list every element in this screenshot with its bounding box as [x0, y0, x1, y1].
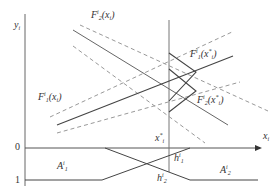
f2-at-xstar-label: Fi2(x*i) — [197, 94, 224, 106]
x-axis-arrow-icon — [255, 145, 262, 151]
f1-at-xstar-label: Fi1(x*i) — [190, 48, 217, 60]
x-axis-label: xi — [263, 131, 269, 142]
f2-lower-bound — [73, 46, 205, 143]
x-star-label: x*i — [155, 132, 164, 144]
f2-label: Fi2(xi) — [91, 9, 115, 21]
f1-line — [57, 56, 233, 125]
region-a2-label: Ai2 — [220, 164, 231, 176]
tick-0: 0 — [15, 142, 20, 152]
tick-1: 1 — [15, 175, 20, 185]
fuzzy-function-diagram: yi xi 0 1 Fi2(xi) Fi1(xi) Fi1(x*i) Fi2(x… — [0, 0, 279, 196]
h2-label: hi2 — [157, 172, 167, 184]
h1-label: hi1 — [174, 152, 184, 164]
region-a1-label: Ai1 — [57, 160, 68, 172]
y-axis-label: yi — [14, 20, 20, 31]
f2-upper-bound — [80, 25, 268, 111]
f1-label: Fi1(xi) — [38, 91, 62, 103]
